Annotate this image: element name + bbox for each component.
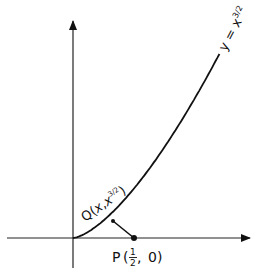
point-p (131, 235, 137, 241)
p-label: P ( 1 2 , 0 ) (112, 247, 162, 268)
p-label-num: 1 (130, 247, 136, 257)
p-label-close: ) (157, 249, 162, 265)
p-label-name: P (112, 249, 120, 265)
p-label-sep: , (137, 249, 141, 265)
point-q (111, 219, 115, 223)
curve-label-exp: 3/2 (231, 4, 245, 20)
p-label-y: 0 (148, 249, 157, 265)
p-label-den: 2 (130, 258, 136, 268)
figure-canvas: y = x3/2 Q(x,x3/2) P ( 1 2 , 0 ) (0, 0, 256, 279)
p-label-open: ( (123, 249, 128, 265)
svg-text:y = x3/2: y = x3/2 (215, 4, 251, 53)
curve-label: y = x3/2 (215, 4, 251, 53)
segment-qp (113, 221, 134, 238)
